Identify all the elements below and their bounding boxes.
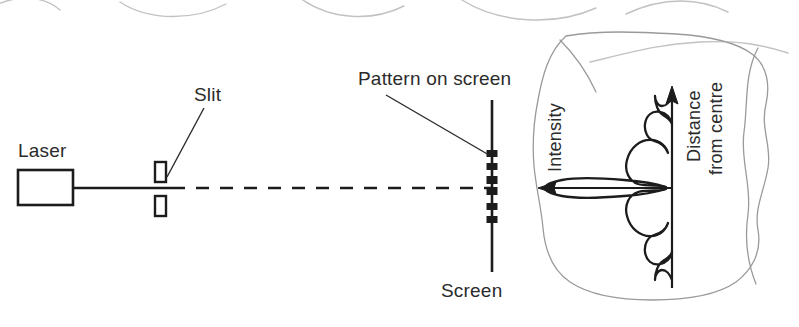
- laser-label: Laser: [18, 140, 67, 161]
- diffraction-figure: Laser Slit Screen Pattern on screen: [0, 0, 799, 327]
- distance-from-centre-label-line2: from centre: [706, 82, 726, 175]
- pattern-leader-line: [386, 95, 489, 155]
- slit-jaw-upper: [155, 162, 166, 182]
- slit-jaw-lower: [155, 196, 166, 216]
- slit-leader-line: [167, 108, 204, 177]
- diagram-canvas: Laser Slit Screen Pattern on screen: [0, 0, 799, 327]
- fringe-mark: [487, 163, 498, 170]
- fringe-mark: [487, 216, 498, 223]
- fringe-mark: [487, 176, 498, 184]
- fringe-mark: [487, 187, 498, 195]
- fringe-mark: [487, 203, 498, 210]
- callout-blob: [533, 32, 769, 300]
- screen-label: Screen: [441, 280, 502, 301]
- pattern-on-screen-label: Pattern on screen: [358, 68, 511, 89]
- top-decoration-waves: [0, 0, 788, 62]
- slit-label: Slit: [194, 84, 222, 105]
- laser-source: [18, 170, 73, 205]
- intensity-axis-label: Intensity: [545, 103, 565, 172]
- laser-box: [18, 170, 73, 205]
- fringe-mark: [487, 150, 498, 157]
- distance-from-centre-label-line1: Distance: [684, 90, 704, 162]
- position-axis-arrowhead: [666, 86, 678, 104]
